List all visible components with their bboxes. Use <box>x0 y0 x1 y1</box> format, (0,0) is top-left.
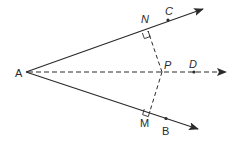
ray-ab <box>26 72 198 129</box>
segment-pm-dashed <box>150 72 162 111</box>
label-d: D <box>189 58 197 70</box>
angle-bisector-diagram: A N C P D M B <box>0 0 237 142</box>
point-d-dot <box>192 70 195 73</box>
label-m: M <box>140 117 149 129</box>
point-b-dot <box>164 117 167 120</box>
ray-ac <box>26 9 203 72</box>
label-b: B <box>162 125 169 137</box>
point-c-dot <box>166 18 169 21</box>
label-p: P <box>164 59 172 71</box>
right-angle-marker-n <box>142 31 150 39</box>
label-n: N <box>141 13 149 25</box>
label-c: C <box>165 5 173 17</box>
segment-pn-dashed <box>148 31 162 72</box>
label-a: A <box>15 67 23 79</box>
